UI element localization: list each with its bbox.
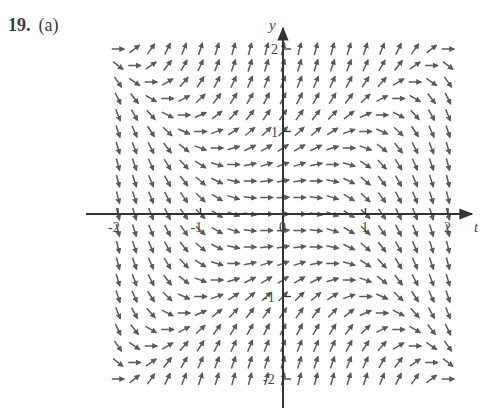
slope-segment — [378, 225, 385, 235]
slope-segment — [178, 96, 189, 102]
slope-segment — [164, 159, 171, 170]
slope-segment — [246, 110, 254, 120]
slope-segment — [311, 292, 321, 300]
slope-segment — [429, 159, 433, 171]
slope-segment — [393, 343, 404, 349]
slope-segment — [248, 43, 251, 55]
slope-segment — [133, 225, 137, 237]
slope-segment — [376, 129, 387, 134]
slope-segment — [195, 260, 206, 267]
slope-segment — [426, 78, 436, 85]
slope-segment — [261, 163, 273, 167]
slope-segment — [428, 325, 436, 335]
slope-segment — [396, 373, 402, 384]
slope-segment — [133, 241, 137, 253]
slope-segment — [327, 196, 339, 200]
x-tick-label: -2 — [108, 220, 120, 235]
slope-segment — [180, 225, 187, 235]
slope-segment — [232, 373, 235, 385]
slope-segment — [114, 341, 121, 351]
slope-segment — [229, 308, 237, 317]
slope-segment — [296, 308, 303, 318]
slope-segment — [329, 324, 336, 335]
slope-segment — [380, 373, 385, 385]
slope-segment — [130, 375, 140, 383]
slope-segment — [380, 43, 385, 55]
slope-segment — [331, 43, 334, 55]
slope-segment — [393, 310, 404, 316]
slope-segment — [395, 242, 401, 253]
slope-segment — [262, 127, 271, 136]
slope-segment — [165, 192, 171, 203]
slope-segment — [164, 358, 172, 368]
slope-segment — [293, 246, 305, 247]
slope-segment — [199, 373, 203, 385]
slope-segment — [162, 79, 173, 85]
slope-segment — [213, 94, 221, 104]
slope-segment — [163, 292, 172, 301]
slope-segment — [310, 145, 321, 150]
slope-segment — [413, 225, 418, 237]
slope-segment — [244, 145, 255, 150]
slope-segment — [361, 243, 371, 251]
slope-segment — [446, 142, 450, 154]
x-tick-label: 1 — [362, 220, 369, 235]
slope-segment — [227, 180, 239, 182]
slope-segment — [395, 275, 403, 285]
slope-segment — [196, 325, 205, 334]
slope-segment — [428, 110, 434, 121]
slope-segment — [248, 340, 253, 352]
slope-segment — [346, 340, 352, 351]
slope-segment — [148, 142, 154, 153]
slope-segment — [412, 126, 419, 137]
slope-segment — [211, 178, 222, 183]
slope-segment — [265, 60, 269, 72]
slope-segment — [344, 309, 354, 317]
slope-segment — [412, 258, 417, 269]
slope-segment — [363, 357, 368, 368]
slope-segment — [248, 357, 252, 369]
slope-segment — [260, 180, 272, 181]
slope-segment — [148, 258, 153, 269]
slope-segment — [147, 374, 154, 384]
slope-segment — [195, 146, 207, 150]
slope-segment — [395, 61, 403, 71]
slope-segment — [261, 277, 272, 283]
slope-segment — [211, 129, 223, 133]
slope-segment — [213, 325, 221, 335]
slope-segment — [164, 176, 170, 187]
slope-segment — [132, 291, 137, 302]
slope-segment — [293, 180, 305, 181]
slope-segment — [347, 60, 351, 72]
slope-segment — [182, 43, 187, 55]
slope-segment — [426, 342, 436, 349]
slope-segment — [312, 110, 320, 120]
slope-segment — [180, 192, 187, 202]
slope-segment — [395, 159, 402, 170]
slope-segment — [412, 159, 417, 170]
slope-segment — [263, 308, 270, 318]
slope-segment — [212, 309, 222, 317]
slope-segment — [260, 246, 272, 247]
slope-segment — [180, 77, 188, 86]
slope-segment — [195, 161, 206, 168]
slope-segment — [314, 373, 317, 385]
slope-segment — [130, 45, 140, 53]
slope-segment — [196, 193, 205, 202]
slope-segment — [227, 278, 239, 281]
slope-segment — [162, 310, 173, 316]
slope-segment — [326, 180, 338, 182]
slope-segment — [295, 292, 304, 301]
slope-segment — [297, 340, 302, 352]
slope-segment — [327, 293, 338, 300]
slope-segment — [446, 175, 449, 187]
slope-segment — [211, 244, 222, 249]
slope-segment — [445, 324, 451, 335]
slope-segment — [360, 146, 372, 150]
slope-segment — [198, 60, 203, 71]
slope-segment — [298, 357, 302, 369]
slope-segment — [132, 258, 136, 270]
slope-segment — [362, 77, 369, 88]
slope-segment — [215, 60, 219, 72]
slope-segment — [347, 373, 351, 385]
